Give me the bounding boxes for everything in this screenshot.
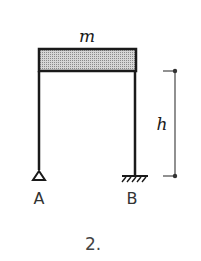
support-a-label: A [34,189,45,208]
fixed-support-icon [122,176,148,182]
height-label: h [157,114,168,134]
figure-caption: 2. [85,234,101,254]
mass-label: m [79,26,95,46]
pin-support-icon [33,171,45,180]
support-b-label: B [127,189,138,208]
frame-diagram: m A B h 2. [0,0,201,261]
rigid-beam [39,49,136,71]
